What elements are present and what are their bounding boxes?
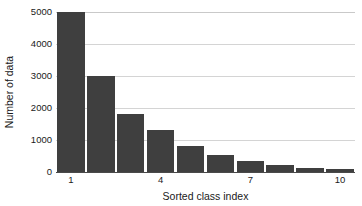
bar-series <box>56 12 355 172</box>
y-tick-label: 0 <box>14 167 52 177</box>
bar <box>266 165 294 172</box>
bar <box>207 155 235 172</box>
x-tick-label: 7 <box>235 174 265 186</box>
plot-area <box>56 12 355 172</box>
y-tick-label: 5000 <box>14 7 52 17</box>
bar <box>237 161 265 172</box>
x-tick-label: 1 <box>56 174 86 186</box>
x-axis-title: Sorted class index <box>56 189 355 203</box>
y-tick-label: 3000 <box>14 71 52 81</box>
bar <box>177 146 205 172</box>
x-axis-line <box>56 172 355 173</box>
y-tick-label: 4000 <box>14 39 52 49</box>
x-axis-tick-labels: 14710 <box>56 174 355 188</box>
y-axis-tick-labels: 010002000300040005000 <box>14 0 52 206</box>
bar <box>87 76 115 172</box>
bar <box>117 114 145 172</box>
bar-chart-figure: Number of data 010002000300040005000 147… <box>0 0 362 206</box>
y-tick-label: 2000 <box>14 103 52 113</box>
x-tick-label: 10 <box>325 174 355 186</box>
bar <box>147 130 175 172</box>
x-tick-label: 4 <box>146 174 176 186</box>
bar <box>57 12 85 172</box>
y-tick-label: 1000 <box>14 135 52 145</box>
